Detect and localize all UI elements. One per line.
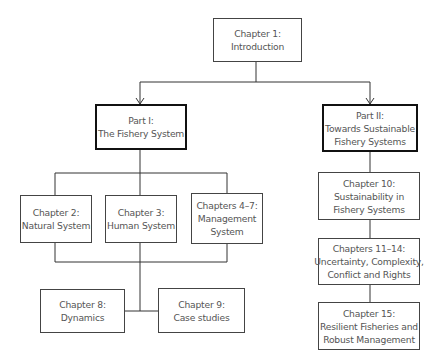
- node-title: Part II:: [356, 109, 384, 122]
- node-chapter-8: Chapter 8: Dynamics: [40, 289, 125, 333]
- node-chapter-3: Chapter 3: Human System: [105, 195, 177, 243]
- node-subtitle: Management: [198, 212, 257, 225]
- node-chapter-10: Chapter 10: Sustainability in Fishery Sy…: [318, 172, 420, 220]
- node-chapter-15: Chapter 15: Resilient Fisheries and Robu…: [318, 302, 420, 350]
- node-subtitle: Towards Sustainable: [325, 122, 415, 135]
- node-chapter-9: Chapter 9: Case studies: [158, 288, 245, 333]
- node-subtitle: Resilient Fisheries and: [320, 320, 418, 333]
- node-chapters-4-7: Chapters 4–7: Management System: [191, 193, 263, 244]
- node-subtitle: Sustainability in: [334, 190, 404, 203]
- node-subtitle: Robust Management: [323, 333, 415, 346]
- node-subtitle: Human System: [107, 219, 175, 232]
- node-subtitle: Dynamics: [61, 311, 105, 324]
- node-title: Chapter 15:: [343, 307, 395, 320]
- node-part-1: Part I: The Fishery System: [95, 104, 187, 150]
- node-subtitle: System: [210, 225, 243, 238]
- node-title: Chapter 2:: [33, 206, 80, 219]
- node-title: Chapter 8:: [59, 298, 106, 311]
- node-title: Chapters 11–14:: [333, 242, 406, 255]
- node-chapter-1: Chapter 1: Introduction: [213, 18, 302, 62]
- node-chapter-2: Chapter 2: Natural System: [20, 195, 92, 243]
- node-subtitle: Uncertainty, Complexity,: [314, 255, 424, 268]
- node-title: Chapter 1:: [234, 27, 281, 40]
- node-part-2: Part II: Towards Sustainable Fishery Sys…: [322, 104, 418, 152]
- node-title: Part I:: [128, 114, 153, 127]
- node-subtitle: Case studies: [173, 311, 229, 324]
- node-subtitle: Conflict and Rights: [327, 268, 410, 281]
- node-title: Chapter 10:: [343, 177, 395, 190]
- node-subtitle: Fishery Systems: [334, 135, 406, 148]
- node-subtitle: Natural System: [22, 219, 90, 232]
- node-title: Chapter 3:: [118, 206, 165, 219]
- node-title: Chapter 9:: [178, 298, 225, 311]
- node-subtitle: Fishery Systems: [333, 203, 405, 216]
- node-chapters-11-14: Chapters 11–14: Uncertainty, Complexity,…: [318, 238, 420, 285]
- node-subtitle: Introduction: [231, 40, 284, 53]
- node-title: Chapters 4–7:: [196, 199, 257, 212]
- node-subtitle: The Fishery System: [98, 127, 184, 140]
